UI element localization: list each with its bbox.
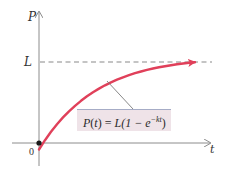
- growth-chart: P t 0 L: [0, 0, 228, 179]
- formula-exponent: −kt: [151, 115, 162, 124]
- formula-rhs: L(1 − e: [114, 116, 150, 130]
- callout-pointer: [107, 81, 133, 109]
- x-axis-label: t: [210, 143, 215, 156]
- origin-point: [36, 140, 41, 145]
- y-axis-label: P: [27, 10, 37, 24]
- formula-equals: =: [105, 116, 112, 130]
- formula-suffix: ): [162, 116, 166, 130]
- paren-close: ): [98, 116, 102, 130]
- growth-curve: [39, 62, 195, 149]
- origin-label: 0: [29, 146, 34, 157]
- asymptote-label: L: [23, 55, 32, 69]
- formula-callout: P(t) = L(1 − e−kt): [77, 109, 171, 131]
